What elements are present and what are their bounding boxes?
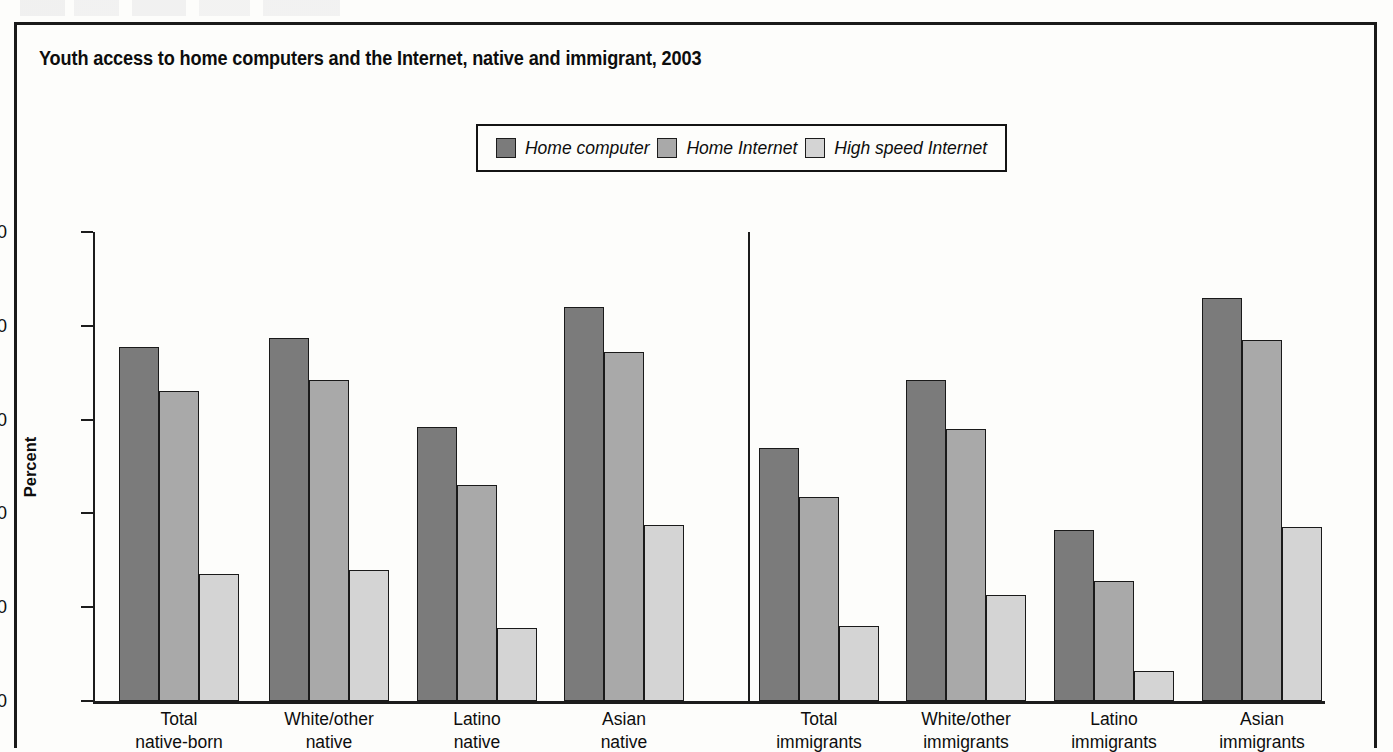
bar-group [759, 232, 879, 701]
y-axis-tick [81, 606, 93, 608]
legend-entry: Home Internet [657, 138, 797, 159]
y-axis-tick [81, 512, 93, 514]
bar-group [564, 232, 684, 701]
bar [417, 427, 457, 701]
bar [644, 525, 684, 701]
bar [986, 595, 1026, 701]
bar [759, 448, 799, 701]
x-axis-category-label-line: Asian [1152, 708, 1372, 731]
legend-swatch-icon [496, 138, 516, 158]
bar [799, 497, 839, 701]
bar [604, 352, 644, 701]
bar-group [1054, 232, 1174, 701]
bar [1094, 581, 1134, 701]
bar [159, 391, 199, 701]
y-axis-line [93, 232, 96, 701]
bar [349, 570, 389, 701]
x-axis-line [93, 701, 1325, 704]
y-axis-tick-label: 20 [0, 597, 7, 618]
x-axis-category-label: Asianimmigrants [1152, 708, 1372, 752]
legend-label: Home Internet [686, 138, 797, 159]
bar [119, 347, 159, 701]
y-axis-tick [81, 231, 93, 233]
y-axis-tick [81, 325, 93, 327]
y-axis-tick-label: 40 [0, 503, 7, 524]
legend-swatch-icon [805, 138, 825, 158]
bar [457, 485, 497, 701]
x-axis-category-label-line: Asian [514, 708, 734, 731]
legend-label: Home computer [525, 138, 650, 159]
bar [946, 429, 986, 701]
y-axis-tick-label: 80 [0, 315, 7, 336]
legend-swatch-icon [657, 138, 677, 158]
legend-entry: High speed Internet [805, 138, 987, 159]
chart-legend: Home computerHome InternetHigh speed Int… [476, 124, 1007, 172]
legend-label: High speed Internet [834, 138, 987, 159]
y-axis-tick [81, 419, 93, 421]
page-bleed-artifact [20, 0, 340, 16]
bar [269, 338, 309, 701]
bar-group [119, 232, 239, 701]
bar [1054, 530, 1094, 701]
native-immigrant-divider [748, 232, 750, 701]
bar-group [1202, 232, 1322, 701]
bar [309, 380, 349, 701]
bar [1282, 527, 1322, 701]
bar [1134, 671, 1174, 701]
bar-group [269, 232, 389, 701]
y-axis-tick [81, 700, 93, 702]
figure-title: Youth access to home computers and the I… [39, 47, 701, 70]
bar [906, 380, 946, 701]
bar [199, 574, 239, 701]
y-axis-tick-label: 60 [0, 409, 7, 430]
y-axis-tick-label: 100 [0, 222, 7, 243]
chart-plot-area: Percent 020406080100Totalnative-bornWhit… [94, 232, 1324, 701]
bar [1202, 298, 1242, 701]
bar [564, 307, 604, 701]
bar [839, 626, 879, 701]
x-axis-category-label-line: immigrants [1152, 731, 1372, 752]
y-axis-title: Percent [21, 436, 40, 497]
x-axis-category-label: Asiannative [514, 708, 734, 752]
bar [497, 628, 537, 701]
bar [1242, 340, 1282, 701]
y-axis-tick-label: 0 [0, 691, 7, 712]
legend-entry: Home computer [496, 138, 650, 159]
bar-group [417, 232, 537, 701]
x-axis-category-label-line: native [514, 731, 734, 752]
bar-group [906, 232, 1026, 701]
figure-frame: Youth access to home computers and the I… [14, 22, 1377, 748]
